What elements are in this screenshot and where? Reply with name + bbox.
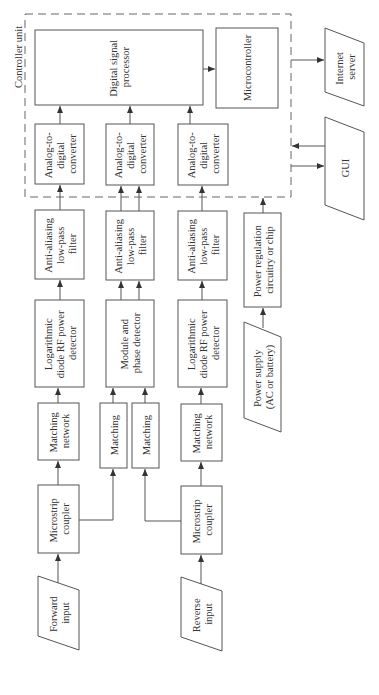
svg-text:Power supply (AC or batt: Power supply (AC or battery)	[252, 344, 276, 409]
power-regulation-block: Power regulation circuitry or chip	[244, 213, 281, 307]
svg-text:Matching: Matching	[141, 414, 152, 455]
internet-server-block: Internet server	[325, 28, 364, 106]
power-supply-block: Power supply (AC or battery)	[244, 322, 281, 432]
anti-aliasing-filter-3: Anti-aliasing low-pass filter	[178, 211, 227, 280]
adc-block-3: Analog-to- digital converter	[178, 124, 228, 185]
svg-text:Module and phase detecto: Module and phase detector	[119, 312, 142, 373]
reverse-input-block: Reverse input	[181, 577, 222, 651]
svg-text:Microcontroller: Microcontroller	[242, 34, 253, 101]
controller-unit-label: Controller unit	[13, 26, 24, 88]
matching-block-a: Matching	[100, 403, 127, 468]
matching-network-2: Matching network	[181, 404, 222, 461]
arrow-coupler2-to-matching-b	[145, 469, 181, 521]
digital-signal-processor-block: Digital signal processor	[35, 30, 203, 105]
forward-input-block: Forward input	[38, 576, 79, 650]
svg-text:Matching: Matching	[109, 414, 120, 455]
anti-aliasing-filter-1: Anti-aliasing low-pass filter	[35, 210, 84, 279]
microcontroller-block: Microcontroller	[216, 28, 278, 108]
module-phase-detector: Module and phase detector	[106, 300, 154, 387]
microstrip-coupler-1: Microstrip coupler	[38, 485, 79, 553]
rf-power-detector-1: Logarithmic diode RF power detector	[35, 300, 84, 387]
rf-power-detector-2: Logarithmic diode RF power detector	[178, 300, 227, 387]
svg-text:Matching network: Matching network	[191, 411, 214, 454]
matching-block-b: Matching	[132, 403, 159, 468]
adc-block-1: Analog-to- digital converter	[35, 124, 84, 184]
svg-text:Internet server: Internet server	[334, 49, 357, 84]
adc-block-2: Analog-to- digital converter	[106, 124, 154, 185]
svg-text:Power regulation circuit: Power regulation circuitry or chip	[252, 223, 275, 298]
microstrip-coupler-2: Microstrip coupler	[181, 486, 222, 554]
arrow-coupler1-to-matching-a	[79, 469, 113, 520]
block-diagram: Controller unit Digital signal processor…	[0, 0, 379, 695]
svg-text:GUI: GUI	[340, 158, 351, 177]
matching-network-1: Matching network	[38, 403, 79, 460]
gui-block: GUI	[325, 117, 364, 220]
anti-aliasing-filter-2: Anti-aliasing low-pass filter	[106, 211, 154, 280]
svg-text:Matching network: Matching network	[48, 410, 71, 453]
